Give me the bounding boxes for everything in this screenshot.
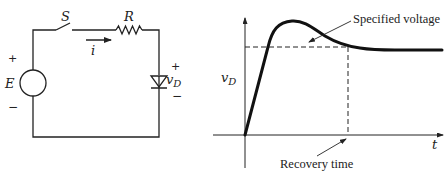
source-label: E xyxy=(4,76,15,91)
diode-voltage-sub: D xyxy=(172,78,181,89)
wire-left xyxy=(33,30,56,70)
diode-voltage-label: vD xyxy=(166,72,181,89)
specified-voltage-label: Specified voltage xyxy=(353,12,441,26)
diode-minus: − xyxy=(172,89,182,103)
voltage-source-icon xyxy=(20,70,46,96)
circuit-schematic: S R i + E − + vD − xyxy=(4,9,182,137)
resistor-icon xyxy=(116,26,142,34)
diagram-canvas: S R i + E − + vD − vD t Specified voltag… xyxy=(0,0,448,182)
source-minus: − xyxy=(8,100,18,114)
switch-icon xyxy=(56,23,70,30)
y-axis-label-sub: D xyxy=(227,76,236,87)
x-axis-label: t xyxy=(432,137,438,152)
recovery-time-label: Recovery time xyxy=(280,157,354,171)
switch-label: S xyxy=(61,9,70,24)
diode-icon xyxy=(151,76,167,88)
source-plus: + xyxy=(8,52,17,65)
current-label: i xyxy=(91,43,95,58)
recovery-graph: vD t Specified voltage Recovery time xyxy=(213,12,443,171)
wire-bottom xyxy=(33,88,159,137)
recovery-time-pointer xyxy=(317,139,346,156)
voltage-curve xyxy=(245,21,442,135)
y-axis-label: vD xyxy=(221,70,236,87)
resistor-label: R xyxy=(123,9,134,24)
wire-right xyxy=(142,30,159,75)
